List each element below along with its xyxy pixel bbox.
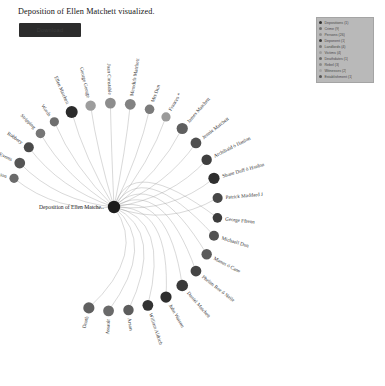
graph-node[interactable]: Arson <box>123 305 134 331</box>
node-label: Mrs Dun <box>149 83 161 103</box>
graph-node[interactable]: John Watson <box>160 291 186 328</box>
node-label: Stripping <box>20 112 38 130</box>
node-circle[interactable] <box>85 100 95 110</box>
graph-node[interactable]: Robbery <box>6 130 34 152</box>
graph-node[interactable]: Multiple Events <box>0 143 25 169</box>
node-circle[interactable] <box>66 106 78 118</box>
graph-node[interactable]: Manus ó Cane <box>201 249 242 274</box>
edge <box>40 133 114 207</box>
node-label: William Aldrich <box>148 312 165 346</box>
node-circle[interactable] <box>208 173 219 184</box>
node-circle[interactable] <box>14 158 25 169</box>
network-graph: PossessionMultiple EventsRobberyStrippin… <box>0 0 385 386</box>
node-circle[interactable] <box>176 280 188 292</box>
node-label: Patrick Maddard J <box>225 191 263 200</box>
node-label: Manus ó Cane <box>213 255 243 274</box>
graph-node[interactable]: Patrick Maddard J <box>213 191 263 203</box>
hub-label: Deposition of Ellen Matche.. <box>39 204 104 210</box>
node-circle[interactable] <box>209 231 219 241</box>
edge <box>109 207 135 311</box>
graph-node[interactable]: Words <box>40 103 59 126</box>
node-label: Shane Duff ó Hanlon <box>221 161 265 179</box>
node-label: Frances * <box>167 91 182 111</box>
node-circle[interactable] <box>9 174 18 183</box>
graph-node[interactable]: Meredith Matchett <box>125 57 141 109</box>
graph-node[interactable]: Stripping <box>20 112 46 138</box>
node-label: James Matchett <box>185 95 211 123</box>
node-label: Michaell Dun <box>221 235 250 249</box>
graph-node[interactable]: Archibald ó Hanlon <box>201 135 251 165</box>
hub-node[interactable]: Deposition of Ellen Matche.. <box>39 201 120 213</box>
node-label: Jennie Matchett <box>201 115 231 140</box>
node-label: Robbery <box>6 130 24 145</box>
node-label: Phelim Roe ó Neile <box>201 274 237 304</box>
graph-node[interactable]: Jennie Matchett <box>191 115 231 148</box>
node-label: Words <box>40 103 52 117</box>
node-circle[interactable] <box>160 291 171 302</box>
graph-node[interactable]: Joan Constable <box>105 64 116 109</box>
graph-node[interactable]: Mrs Dun <box>145 83 161 114</box>
node-label: Assault <box>104 318 111 334</box>
node-circle[interactable] <box>201 249 211 259</box>
node-label: Joan Constable <box>106 64 113 96</box>
node-circle[interactable] <box>161 112 170 121</box>
node-circle[interactable] <box>125 99 136 110</box>
graph-node[interactable]: Assault <box>103 305 114 334</box>
node-label: Daniel Matchett <box>186 290 213 319</box>
node-label: Multiple Events <box>0 143 13 162</box>
node-label: George George <box>79 67 92 99</box>
hub-circle[interactable] <box>108 201 120 213</box>
node-circle[interactable] <box>191 266 202 277</box>
graph-node[interactable]: Shane Duff ó Hanlon <box>208 161 265 184</box>
graph-node[interactable]: Possession <box>0 167 19 183</box>
node-label: John Watson <box>168 303 186 329</box>
graph-node[interactable]: George Ffrenn <box>213 213 256 225</box>
edge <box>29 147 114 207</box>
graph-node[interactable]: Frances * <box>161 91 182 121</box>
graph-node[interactable]: Ellen Matchett <box>53 75 77 118</box>
node-circle[interactable] <box>177 123 188 134</box>
edge <box>114 204 182 285</box>
node-circle[interactable] <box>213 193 223 203</box>
graph-node[interactable]: James Matchett <box>177 95 212 134</box>
node-label: Possession <box>0 167 8 179</box>
node-label: George Ffrenn <box>225 216 256 225</box>
edge <box>114 178 214 208</box>
edge <box>114 207 144 310</box>
edge <box>114 200 196 271</box>
node-circle[interactable] <box>105 98 116 109</box>
node-circle[interactable] <box>36 129 46 139</box>
edge <box>114 117 166 207</box>
node-label: Ellen Matchett <box>53 75 71 105</box>
edge <box>20 163 114 207</box>
graph-node[interactable]: Daniel Matchett <box>176 280 212 320</box>
node-label: Death <box>81 315 90 329</box>
node-circle[interactable] <box>83 302 94 313</box>
node-circle[interactable] <box>191 138 202 149</box>
edge <box>91 106 114 207</box>
edge <box>114 194 207 254</box>
node-circle[interactable] <box>213 213 223 223</box>
node-circle[interactable] <box>145 104 155 114</box>
node-label: Archibald ó Hanlon <box>213 135 252 159</box>
edge <box>114 129 182 207</box>
node-circle[interactable] <box>103 305 114 316</box>
graph-node[interactable]: William Aldrich <box>142 300 164 346</box>
node-label: Arson <box>127 318 135 332</box>
node-circle[interactable] <box>201 155 211 165</box>
graph-node[interactable]: George George <box>79 67 96 111</box>
graph-node[interactable]: Death <box>81 302 95 328</box>
graph-node[interactable]: Michaell Dun <box>209 231 250 249</box>
node-circle[interactable] <box>24 142 34 152</box>
edge <box>110 103 114 207</box>
node-circle[interactable] <box>50 117 59 126</box>
node-circle[interactable] <box>142 300 153 311</box>
node-label: Meredith Matchett <box>128 57 140 96</box>
node-circle[interactable] <box>123 305 133 315</box>
